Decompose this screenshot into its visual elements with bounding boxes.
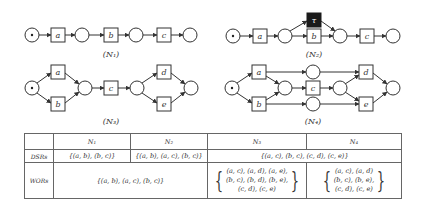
place [278, 81, 292, 95]
place [129, 28, 143, 42]
header-cell-n3: N₃ [208, 134, 307, 150]
net-caption: (N₃) [103, 117, 119, 126]
token-icon [31, 87, 33, 89]
row-label-dsrs: DSRs [25, 150, 54, 163]
set-line: (a, c), (a, d), (a, e), [226, 167, 288, 176]
net-n2: a b τ c (N₂) [226, 13, 400, 59]
place [278, 29, 292, 43]
transition-label: c [311, 84, 316, 93]
transition-label: b [311, 32, 316, 41]
relations-table: N₁ N₂ N₃ N₄ DSRs {(a, b), (b, c)} {(a, b… [24, 133, 402, 199]
set-line: (c, d), (c, e) [226, 185, 288, 194]
place-final [183, 28, 197, 42]
header-cell-n1: N₁ [54, 134, 131, 150]
place-final [386, 29, 400, 43]
place [306, 65, 320, 79]
transition-label: c [162, 31, 167, 40]
right-brace: } [377, 170, 385, 192]
transition-label: e [162, 100, 167, 109]
transition-label: a [257, 68, 262, 77]
token-icon [231, 87, 233, 89]
brace-set: { (a, c), (a, d) (b, c), (b, e), (c, d),… [320, 167, 388, 194]
table-row-dsrs: DSRs {(a, b), (b, c)} {(a, b), (a, c), (… [25, 150, 402, 163]
cell-wors-n1-n2: {(a, b), (a, c), (b, c)} [54, 163, 208, 199]
right-brace: } [291, 170, 299, 192]
cell-dsrs-n2: {(a, b), (a, c), (b, c)} [131, 150, 208, 163]
net-caption: (N₂) [306, 50, 322, 59]
place [333, 29, 347, 43]
transition-label: τ [312, 16, 317, 25]
token-icon [232, 35, 234, 37]
net-caption: (N₄) [305, 117, 321, 126]
transition-label: a [56, 31, 61, 40]
brace-set: { (a, c), (a, d), (a, e), (b, c), (b, d)… [212, 167, 302, 194]
cell-dsrs-n3-n4: {(a, c), (b, c), (c, d), (c, e)} [208, 150, 402, 163]
place-final [184, 81, 198, 95]
set-line: (c, d), (c, e) [334, 185, 374, 194]
transition-label: c [109, 84, 114, 93]
transition-label: b [256, 100, 261, 109]
place [130, 81, 144, 95]
cell-dsrs-n1: {(a, b), (b, c)} [54, 150, 131, 163]
token-icon [31, 34, 33, 36]
place [78, 81, 92, 95]
row-label-wors: WORs [25, 163, 54, 199]
place [306, 97, 320, 111]
set-line: (b, c), (b, d), (b, e), [226, 176, 288, 185]
petri-nets-figure: a b c (N₁) a b τ c (N₂) [0, 0, 425, 130]
table-header-row: N₁ N₂ N₃ N₄ [25, 134, 402, 150]
set-line: (a, c), (a, d) [334, 167, 374, 176]
transition-label: a [258, 32, 263, 41]
header-cell-n4: N₄ [307, 134, 402, 150]
transition-label: a [56, 68, 61, 77]
transition-label: d [363, 68, 368, 77]
net-n3: a b c d e (N₃) [25, 65, 198, 126]
cell-wors-n4: { (a, c), (a, d) (b, c), (b, e), (c, d),… [307, 163, 402, 199]
transition-label: e [364, 100, 369, 109]
place [75, 28, 89, 42]
header-cell-empty [25, 134, 54, 150]
place-final [386, 81, 400, 95]
transition-label: c [365, 32, 370, 41]
header-cell-n2: N₂ [131, 134, 208, 150]
left-brace: { [215, 170, 223, 192]
set-line: (b, c), (b, e), [334, 176, 374, 185]
transition-label: b [55, 100, 60, 109]
net-caption: (N₁) [103, 50, 119, 59]
net-n1: a b c (N₁) [25, 28, 197, 59]
transition-label: b [108, 31, 113, 40]
transition-label: d [161, 68, 166, 77]
cell-wors-n3: { (a, c), (a, d), (a, e), (b, c), (b, d)… [208, 163, 307, 199]
left-brace: { [323, 170, 331, 192]
place [333, 81, 347, 95]
net-n4: a b c d e (N₄) [225, 65, 400, 126]
table-row-wors: WORs {(a, b), (a, c), (b, c)} { (a, c), … [25, 163, 402, 199]
